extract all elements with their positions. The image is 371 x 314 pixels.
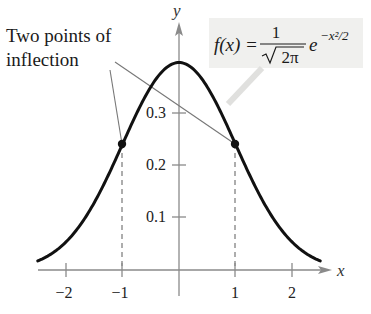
x-tick-label: 2	[288, 284, 296, 301]
y-axis-label: y	[171, 1, 181, 20]
formula-lhs: f(x) =	[214, 34, 258, 56]
annotation-leader-left	[110, 70, 122, 144]
y-tick-label: 0.1	[146, 208, 166, 225]
y-tick-label: 0.2	[146, 156, 166, 173]
annotation-line-1: Two points of	[6, 25, 112, 46]
y-tick-label: 0.3	[146, 104, 166, 121]
x-tick-label: 1	[231, 284, 239, 301]
y-tick-labels: 0.1 0.2 0.3	[146, 104, 166, 225]
inflection-point-pos1	[231, 140, 239, 148]
inflection-point-neg1	[118, 140, 126, 148]
x-tick-label: −2	[55, 284, 72, 301]
x-axis-label: x	[336, 261, 345, 280]
formula-e: e	[309, 34, 317, 55]
formula-exponent: −x²/2	[320, 28, 349, 43]
x-tick-label: −1	[111, 284, 128, 301]
normal-distribution-chart: −2 −1 1 2 0.1 0.2 0.3 x y Two points of …	[0, 0, 371, 314]
formula-numerator: 1	[272, 23, 281, 42]
formula-pointer	[228, 68, 262, 104]
annotation-line-2: inflection	[6, 49, 79, 70]
x-tick-labels: −2 −1 1 2	[55, 284, 296, 301]
formula-denominator: 2π	[281, 48, 299, 67]
